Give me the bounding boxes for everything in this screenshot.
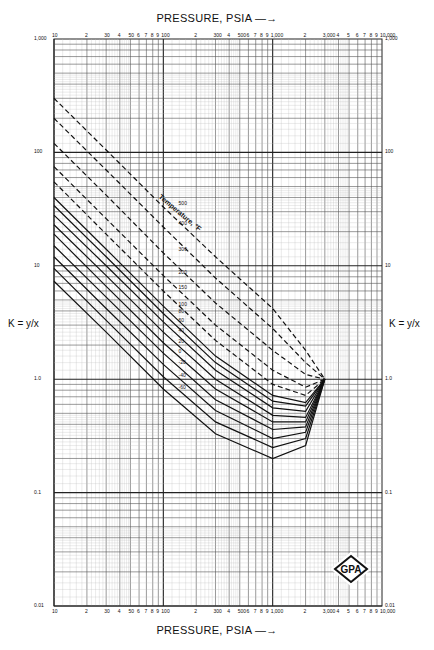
svg-text:0: 0 (179, 348, 182, 354)
x-tick-label: 7 (144, 33, 147, 38)
x-tick-label: 3,000 (323, 33, 336, 38)
x-tick-label: 50 (128, 609, 134, 614)
x-tick-label: 8 (260, 33, 263, 38)
x-tick-label: 30 (104, 609, 110, 614)
x-tick-label: 4 (336, 33, 339, 38)
y-tick-label: 1.0 (385, 376, 392, 381)
y-tick-label: 1.0 (34, 376, 41, 381)
svg-text:60: 60 (179, 317, 185, 323)
svg-text:300: 300 (179, 246, 188, 252)
svg-text:150: 150 (179, 284, 188, 290)
svg-text:100: 100 (179, 301, 188, 307)
x-tick-label: 8 (369, 33, 372, 38)
svg-text:40: 40 (179, 327, 185, 333)
y-tick-label: 10 (385, 263, 391, 268)
x-tick-label: 2 (85, 609, 88, 614)
x-tick-label: 500 (238, 33, 246, 38)
x-tick-label: 6 (356, 609, 359, 614)
svg-text:-40: -40 (179, 372, 186, 378)
x-tick-label: 8 (151, 33, 154, 38)
svg-text:20: 20 (179, 338, 185, 344)
svg-text:-60: -60 (179, 384, 186, 390)
x-tick-label: 5 (347, 609, 350, 614)
x-tick-label: 300 (213, 609, 221, 614)
y-tick-label: 0.01 (385, 603, 395, 608)
x-tick-label: 4 (118, 33, 121, 38)
x-tick-label: 9 (266, 609, 269, 614)
svg-text:80: 80 (179, 308, 185, 314)
x-tick-label: 4 (118, 609, 121, 614)
x-tick-label: 10 (52, 33, 58, 38)
x-tick-label: 4 (227, 33, 230, 38)
y-tick-label: 100 (34, 149, 42, 154)
x-tick-label: 7 (144, 609, 147, 614)
svg-text:500: 500 (179, 200, 188, 206)
x-tick-label: 6 (137, 609, 140, 614)
x-tick-label: 5 (347, 33, 350, 38)
y-tick-label: 1,000 (385, 36, 398, 41)
x-tick-label: 100 (161, 609, 169, 614)
x-tick-label: 8 (151, 609, 154, 614)
x-tick-label: 9 (156, 33, 159, 38)
x-tick-label: 7 (363, 33, 366, 38)
svg-text:-20: -20 (179, 359, 186, 365)
x-tick-label: 6 (246, 33, 249, 38)
x-tick-label: 6 (246, 609, 249, 614)
y-tick-label: 0.1 (385, 490, 392, 495)
x-tick-label: 6 (137, 33, 140, 38)
x-tick-label: 4 (227, 609, 230, 614)
x-tick-label: 7 (363, 609, 366, 614)
x-tick-label: 9 (266, 33, 269, 38)
x-tick-label: 2 (194, 33, 197, 38)
x-tick-label: 30 (104, 33, 110, 38)
x-tick-label: 2 (194, 609, 197, 614)
x-tick-label: 100 (161, 33, 169, 38)
y-tick-label: 0.01 (34, 603, 44, 608)
x-tick-label: 7 (254, 609, 257, 614)
svg-text:200: 200 (179, 269, 188, 275)
y-tick-label: 0.1 (34, 490, 41, 495)
x-tick-label: 1,000 (271, 33, 284, 38)
x-tick-label: 2 (85, 33, 88, 38)
svg-text:GPA: GPA (341, 564, 362, 575)
x-tick-label: 3,000 (323, 609, 336, 614)
x-tick-label: 4 (336, 609, 339, 614)
y-tick-label: 1,000 (34, 36, 47, 41)
y-tick-label: 10 (34, 263, 40, 268)
y-tick-label: 100 (385, 149, 393, 154)
x-tick-label: 8 (369, 609, 372, 614)
x-tick-label: 10,000 (380, 609, 395, 614)
x-tick-label: 10 (52, 609, 58, 614)
x-tick-label: 9 (375, 609, 378, 614)
x-tick-label: 2 (304, 609, 307, 614)
x-tick-label: 7 (254, 33, 257, 38)
gpa-logo: GPA (331, 552, 371, 586)
x-tick-label: 8 (260, 609, 263, 614)
x-tick-label: 2 (304, 33, 307, 38)
x-tick-label: 1,000 (271, 609, 284, 614)
x-tick-label: 9 (156, 609, 159, 614)
x-tick-label: 6 (356, 33, 359, 38)
x-tick-label: 50 (128, 33, 134, 38)
x-tick-label: 300 (213, 33, 221, 38)
x-tick-label: 9 (375, 33, 378, 38)
x-tick-label: 500 (238, 609, 246, 614)
